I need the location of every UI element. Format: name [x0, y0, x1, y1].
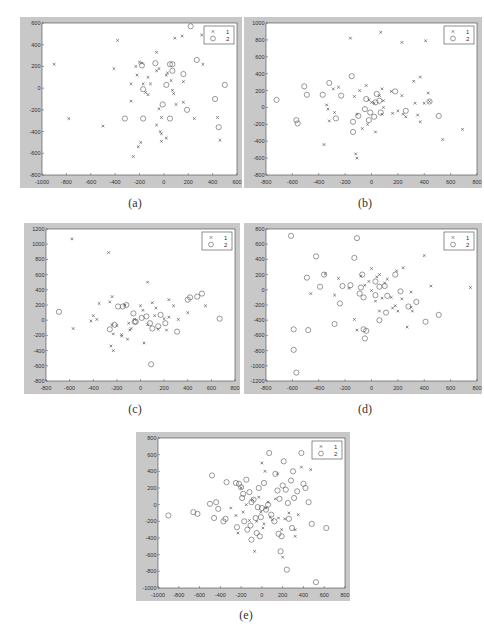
scatter-plot-c: -800-600-400-2000200400600800-800-600-40…: [24, 223, 240, 394]
x-tick-label: 0: [139, 385, 142, 391]
x-tick-label: -600: [85, 179, 96, 185]
x-tick-label: -600: [287, 179, 298, 185]
y-tick-label: 600: [31, 20, 40, 26]
x-tick-label: 200: [278, 592, 287, 598]
y-tick-label: 800: [35, 256, 44, 262]
y-tick-label: 800: [255, 226, 264, 232]
x-tick-label: -800: [260, 179, 271, 185]
x-tick-label: 200: [393, 179, 402, 185]
y-tick-label: -200: [253, 121, 264, 127]
y-tick-label: 0: [261, 287, 264, 293]
y-tick-label: -800: [253, 172, 264, 178]
x-tick-label: 400: [420, 385, 429, 391]
y-tick-label: -400: [33, 348, 44, 354]
y-tick-label: 600: [147, 452, 156, 458]
plot-area: [266, 23, 477, 175]
y-tick-label: 400: [147, 468, 156, 474]
subplot-c: -800-600-400-2000200400600800-800-600-40…: [24, 223, 240, 394]
x-tick-label: 800: [340, 592, 349, 598]
y-tick-label: 400: [31, 42, 40, 48]
y-tick-label: -600: [145, 552, 156, 558]
scatter-plot-a: -1000-800-600-400-2000200400600-800-600-…: [20, 17, 242, 188]
legend: 12: [444, 26, 474, 44]
y-tick-label: -600: [253, 155, 264, 161]
y-tick-label: -400: [29, 129, 40, 135]
y-tick-label: 0: [37, 85, 40, 91]
x-tick-label: -200: [111, 385, 122, 391]
y-tick-label: 400: [255, 256, 264, 262]
y-tick-label: 600: [255, 241, 264, 247]
subplot-d: -800-600-400-2000200400600800-1200-1000-…: [244, 223, 482, 394]
y-tick-label: 1000: [252, 20, 264, 26]
caption-b: (b): [345, 196, 385, 211]
x-tick-label: 200: [160, 385, 169, 391]
y-tick-label: -1000: [142, 585, 156, 591]
x-tick-label: -800: [61, 179, 72, 185]
x-tick-label: 600: [446, 179, 455, 185]
x-tick-label: -400: [110, 179, 121, 185]
y-tick-label: 400: [255, 71, 264, 77]
y-tick-label: -800: [29, 172, 40, 178]
x-tick-label: -400: [88, 385, 99, 391]
x-tick-label: -200: [134, 179, 145, 185]
x-tick-label: 600: [446, 385, 455, 391]
x-tick-label: 600: [207, 385, 216, 391]
x-tick-label: -800: [260, 385, 271, 391]
x-tick-label: 800: [472, 385, 481, 391]
x-tick-label: 400: [420, 179, 429, 185]
y-tick-label: 800: [255, 37, 264, 43]
y-tick-label: -1000: [250, 363, 264, 369]
legend: 12: [312, 441, 342, 459]
x-tick-label: 800: [230, 385, 239, 391]
y-tick-label: 1200: [32, 226, 44, 232]
y-tick-label: 200: [31, 63, 40, 69]
x-tick-label: -400: [313, 385, 324, 391]
legend: 12: [444, 232, 474, 250]
x-tick-label: -600: [194, 592, 205, 598]
y-tick-label: 400: [35, 287, 44, 293]
subplot-a: -1000-800-600-400-2000200400600-800-600-…: [20, 17, 242, 188]
y-tick-label: -800: [145, 568, 156, 574]
x-tick-label: 0: [370, 385, 373, 391]
x-tick-label: -600: [287, 385, 298, 391]
y-tick-label: -600: [29, 150, 40, 156]
y-tick-label: 200: [255, 88, 264, 94]
plot-area: [158, 438, 345, 588]
plot-area: [42, 23, 237, 175]
y-tick-label: 200: [255, 272, 264, 278]
y-tick-label: 200: [35, 302, 44, 308]
y-tick-label: -600: [253, 332, 264, 338]
y-tick-label: 600: [255, 54, 264, 60]
scatter-plot-b: -800-600-400-2000200400600800-800-600-40…: [244, 17, 482, 188]
y-tick-label: -200: [33, 332, 44, 338]
legend: 12: [204, 26, 234, 44]
scatter-plot-e: -1000-800-600-400-2000200400600800-1000-…: [136, 432, 350, 601]
y-tick-label: 0: [261, 104, 264, 110]
caption-d: (d): [345, 402, 385, 417]
subplot-e: -1000-800-600-400-2000200400600800-1000-…: [136, 432, 350, 601]
caption-a: (a): [115, 196, 155, 211]
y-tick-label: -800: [33, 378, 44, 384]
x-tick-label: 600: [320, 592, 329, 598]
y-tick-label: -200: [253, 302, 264, 308]
x-tick-label: 0: [260, 592, 263, 598]
x-tick-label: -800: [173, 592, 184, 598]
x-tick-label: -400: [215, 592, 226, 598]
x-tick-label: 400: [183, 385, 192, 391]
y-tick-label: -400: [253, 138, 264, 144]
y-tick-label: -1200: [250, 378, 264, 384]
x-tick-label: -800: [40, 385, 51, 391]
y-tick-label: -200: [29, 107, 40, 113]
x-tick-label: -1000: [151, 592, 165, 598]
y-tick-label: 600: [35, 272, 44, 278]
legend: 12: [202, 232, 232, 250]
scatter-plot-d: -800-600-400-2000200400600800-1200-1000-…: [244, 223, 482, 394]
x-tick-label: 400: [299, 592, 308, 598]
x-tick-label: -200: [340, 385, 351, 391]
y-tick-label: 800: [147, 435, 156, 441]
y-tick-label: 1000: [32, 241, 44, 247]
x-tick-label: -1000: [35, 179, 49, 185]
y-tick-label: -600: [33, 363, 44, 369]
x-tick-label: 0: [162, 179, 165, 185]
x-tick-label: 400: [208, 179, 217, 185]
